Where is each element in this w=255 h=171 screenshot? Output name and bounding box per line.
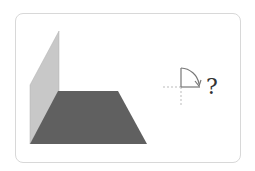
question-mark: ? [206,74,218,99]
rotation-icon [163,68,201,106]
